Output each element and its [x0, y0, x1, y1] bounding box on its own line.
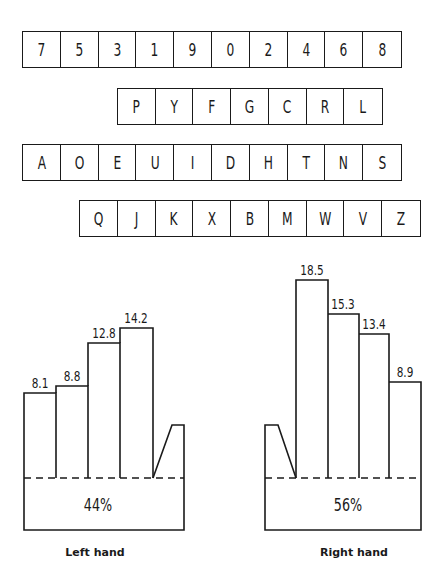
- right-bar-1-label: 18.5: [300, 263, 323, 279]
- left-bar-1: [24, 393, 56, 478]
- right-bar-4-label: 8.9: [397, 365, 414, 381]
- right-bar-2: [328, 314, 359, 478]
- right-thumb-shape: [265, 425, 296, 478]
- left-total-label: 44%: [84, 495, 112, 515]
- left-bar-3: [88, 343, 120, 478]
- right-bar-3: [359, 334, 389, 478]
- left-hand-caption: Left hand: [65, 546, 124, 559]
- right-total-label: 56%: [334, 495, 362, 515]
- left-bar-2: [56, 386, 88, 478]
- right-bar-2-label: 15.3: [331, 297, 354, 313]
- left-bar-2-label: 8.8: [64, 369, 81, 385]
- left-bar-4-label: 14.2: [124, 311, 147, 327]
- hand-load-charts: 8.1 8.8 12.8 14.2 18.5 15.3 13.4 8.9 44%…: [0, 0, 445, 584]
- right-bar-4: [389, 382, 421, 478]
- left-bar-3-label: 12.8: [92, 326, 115, 342]
- right-bar-1: [296, 280, 328, 478]
- right-hand-chart: [265, 280, 421, 530]
- left-bar-4: [120, 328, 153, 478]
- left-thumb-shape: [153, 425, 184, 478]
- left-bar-1-label: 8.1: [32, 376, 49, 392]
- right-hand-caption: Right hand: [320, 546, 388, 559]
- right-bar-3-label: 13.4: [362, 317, 385, 333]
